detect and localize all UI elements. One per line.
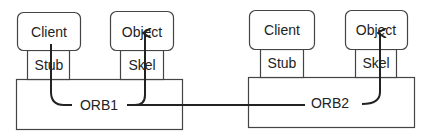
orb1-label: ORB1 (80, 97, 118, 113)
right-host: Client Stub Object Skel ORB2 (249, 11, 415, 128)
client-label-right: Client (264, 22, 300, 38)
skel-label-right: Skel (362, 55, 389, 71)
object-label-left: Object (122, 24, 163, 40)
stub-label-right: Stub (268, 55, 297, 71)
orb2-label: ORB2 (311, 95, 349, 111)
skel-label-left: Skel (128, 57, 155, 73)
stub-label-left: Stub (35, 57, 64, 73)
object-label-right: Object (356, 22, 397, 38)
client-label-left: Client (31, 24, 67, 40)
corba-orb-diagram: Client Stub Object Skel ORB1 Client Stub… (0, 0, 425, 138)
left-host: Client Stub Object Skel ORB1 (17, 12, 183, 130)
